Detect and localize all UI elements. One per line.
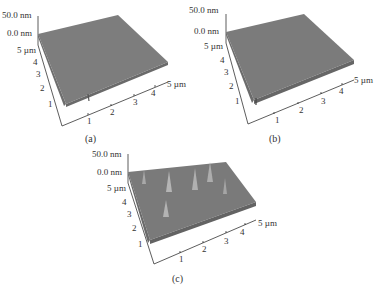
x-tick: 2 bbox=[202, 245, 207, 254]
x-tick: 1 bbox=[179, 255, 184, 264]
z-max-label: 50.0 nm bbox=[2, 11, 32, 20]
z-max-label: 50.0 nm bbox=[92, 150, 122, 159]
x-tick: 4 bbox=[339, 87, 344, 96]
x-tick: 3 bbox=[321, 97, 326, 106]
z-zero-label: 0.0 nm bbox=[97, 168, 122, 177]
x-axis-label: 5 µm bbox=[167, 80, 186, 89]
y-tick: 2 bbox=[229, 82, 234, 91]
y-tick: 4 bbox=[33, 58, 38, 67]
x-tick: 1 bbox=[87, 117, 92, 126]
afm-panel-b: 50.0 nm 0.0 nm 5 µm 4 3 2 1 1 2 3 4 5 µm… bbox=[186, 0, 376, 140]
afm-panel-a: 50.0 nm 0.0 nm 5 µm 4 3 2 1 1 2 3 4 5 µm… bbox=[0, 0, 190, 140]
y-tick: 3 bbox=[36, 70, 41, 79]
y-tick: 1 bbox=[235, 97, 240, 106]
x-tick: 4 bbox=[240, 228, 245, 237]
y-tick: 3 bbox=[127, 210, 132, 219]
y-tick: 2 bbox=[132, 224, 137, 233]
z-zero-label: 0.0 nm bbox=[194, 27, 219, 36]
x-tick: 1 bbox=[275, 116, 280, 125]
z-zero-label: 0.0 nm bbox=[7, 29, 32, 38]
y-tick: 3 bbox=[224, 68, 229, 77]
x-tick: 3 bbox=[133, 98, 138, 107]
afm-panel-c: 50.0 nm 0.0 nm 5 µm 4 3 2 1 1 2 3 4 5 µm… bbox=[90, 140, 290, 290]
panel-caption: (c) bbox=[172, 274, 183, 284]
x-tick: 2 bbox=[110, 108, 115, 117]
y-tick: 1 bbox=[48, 100, 53, 109]
x-tick: 4 bbox=[151, 89, 156, 98]
afm-surface-plot-a bbox=[0, 0, 190, 140]
y-axis-label: 5 µm bbox=[107, 184, 126, 193]
x-tick: 3 bbox=[224, 237, 229, 246]
y-axis-label: 5 µm bbox=[17, 46, 36, 55]
y-tick: 4 bbox=[220, 56, 225, 65]
afm-surface-plot-b bbox=[186, 0, 376, 140]
x-tick: 2 bbox=[299, 106, 304, 115]
x-axis-label: 5 µm bbox=[354, 76, 373, 85]
z-max-label: 50.0 nm bbox=[189, 6, 219, 15]
x-axis-label: 5 µm bbox=[258, 219, 277, 228]
y-tick: 4 bbox=[122, 198, 127, 207]
y-tick: 1 bbox=[138, 240, 143, 249]
afm-surface-plot-c bbox=[90, 140, 290, 290]
y-tick: 2 bbox=[40, 84, 45, 93]
y-axis-label: 5 µm bbox=[204, 42, 223, 51]
